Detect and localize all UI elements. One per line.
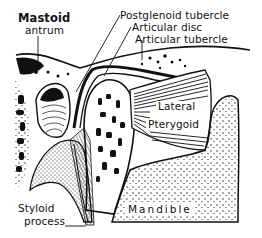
auditory-canal — [36, 84, 70, 138]
label-lateral: Lateral — [156, 101, 197, 112]
label-antrum: antrum — [25, 25, 64, 36]
label-mastoid: Mastoid — [18, 13, 70, 24]
label-postglenoid-tubercle: Postglenoid tubercle — [120, 10, 229, 21]
label-mandible: Mandible — [126, 204, 194, 215]
label-articular-tubercle: Articular tubercle — [135, 34, 228, 45]
label-articular-disc: Articular disc — [132, 22, 202, 33]
label-styloid: Styloid — [18, 203, 55, 214]
label-pterygoid: Pterygoid — [146, 119, 201, 130]
tmj-diagram: Mastoid antrum Postglenoid tubercle Arti… — [0, 0, 262, 238]
label-process: process — [24, 216, 65, 227]
